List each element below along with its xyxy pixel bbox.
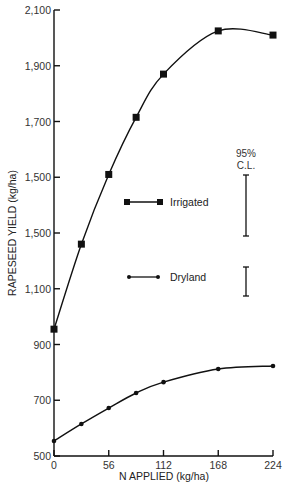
- circle-marker-icon: [161, 380, 166, 385]
- ci-bar-irrigated: [243, 175, 249, 236]
- axes: 5007009001,1001,5001,5001,7001,9002,1000…: [25, 4, 282, 471]
- y-tick-label: 700: [33, 394, 51, 406]
- ci-bar-dryland: [243, 267, 249, 296]
- x-tick-label: 56: [103, 459, 115, 471]
- circle-marker-icon: [216, 367, 221, 372]
- square-marker-icon: [133, 114, 140, 121]
- square-marker-icon: [160, 71, 167, 78]
- y-tick-label: 900: [33, 339, 51, 351]
- circle-marker-icon: [134, 391, 139, 396]
- circle-marker-icon: [106, 406, 111, 411]
- y-tick-label: 1,500: [25, 171, 51, 183]
- y-tick-label: 1,100: [25, 283, 51, 295]
- y-tick-label: 2,100: [25, 4, 51, 16]
- legend-dryland-circle-marker-icon: [156, 275, 160, 279]
- series-irrigated: [51, 27, 277, 332]
- yield-chart: 5007009001,1001,5001,5001,7001,9002,1000…: [0, 0, 293, 490]
- legend-irrigated-label: Irrigated: [170, 196, 209, 208]
- x-tick-label: 168: [209, 459, 227, 471]
- ci-label-line1: 95%: [236, 148, 256, 159]
- x-tick-label: 0: [51, 459, 57, 471]
- y-tick-label: 1,700: [25, 116, 51, 128]
- x-tick-label: 224: [264, 459, 282, 471]
- legend-irrigated-square-marker-icon: [157, 199, 163, 205]
- y-axis-title: RAPESEED YIELD (kg/ha): [6, 170, 18, 296]
- circle-marker-icon: [52, 439, 57, 444]
- confidence-interval-annotation: 95% C.L.: [236, 148, 256, 296]
- legend-dryland-circle-marker-icon: [127, 275, 131, 279]
- y-tick-label: 1,900: [25, 60, 51, 72]
- circle-marker-icon: [271, 364, 276, 369]
- square-marker-icon: [51, 326, 58, 333]
- square-marker-icon: [105, 171, 112, 178]
- legend: Irrigated Dryland: [124, 196, 209, 283]
- ci-label-line2: C.L.: [237, 160, 255, 171]
- square-marker-icon: [215, 27, 222, 34]
- legend-dryland-label: Dryland: [170, 271, 206, 283]
- series-layer: [51, 27, 277, 443]
- y-tick-label: 1,500: [25, 227, 51, 239]
- circle-marker-icon: [79, 422, 84, 427]
- series-line: [54, 366, 273, 441]
- square-marker-icon: [78, 241, 85, 248]
- y-tick-label: 500: [33, 450, 51, 462]
- series-dryland: [52, 364, 276, 444]
- square-marker-icon: [270, 32, 277, 39]
- x-axis-title: N APPLIED (kg/ha): [119, 470, 209, 482]
- legend-irrigated-square-marker-icon: [124, 199, 130, 205]
